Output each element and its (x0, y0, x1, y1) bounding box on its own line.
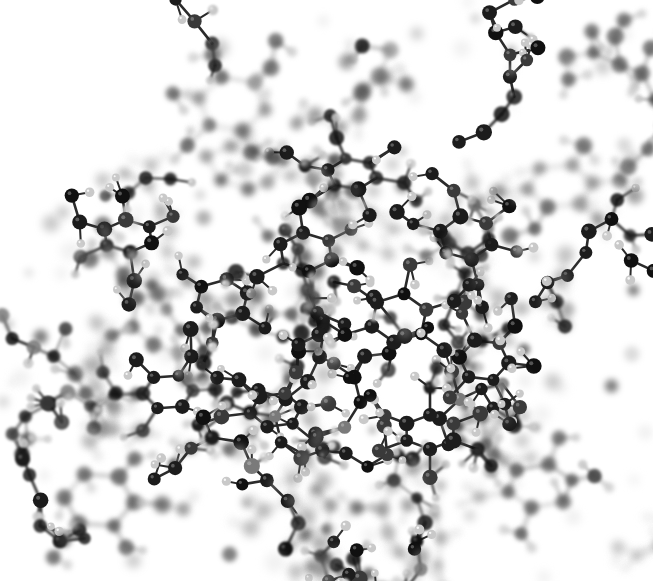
molecular-structure-render (0, 0, 653, 581)
molecule-viewport: Ball-and-stick molecular model Grayscale… (0, 0, 653, 581)
